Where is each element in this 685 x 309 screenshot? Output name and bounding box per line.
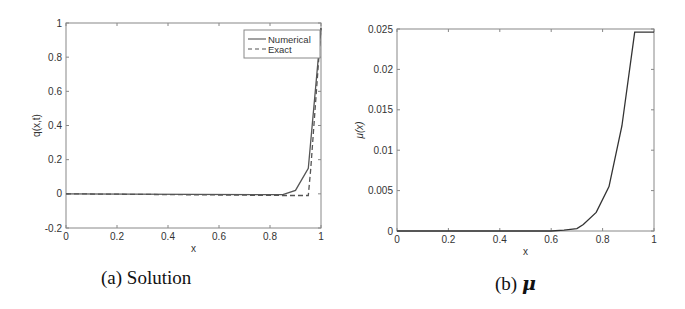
caption-mu: (b) μ — [495, 272, 536, 295]
chart-solution: 00.20.40.60.81-0.200.20.40.60.81xq(x,t)N… — [31, 18, 324, 255]
x-axis-label: x — [523, 246, 528, 257]
x-tick-label: 1 — [651, 234, 657, 245]
y-axis-label: μ(x) — [354, 121, 365, 139]
caption-solution-text: (a) Solution — [101, 267, 191, 288]
y-tick-label: 1 — [56, 18, 62, 29]
x-axis-label: x — [191, 243, 196, 254]
legend-label: Exact — [268, 44, 292, 55]
y-tick-label: 0.015 — [368, 104, 393, 115]
y-tick-label: 0.6 — [48, 86, 62, 97]
series-line-mu — [397, 32, 654, 231]
y-tick-label: 0.01 — [374, 145, 394, 156]
caption-mu-prefix: (b) — [495, 273, 517, 294]
caption-mu-symbol: μ — [522, 272, 536, 294]
figure-canvas: 00.20.40.60.81-0.200.20.40.60.81xq(x,t)N… — [0, 0, 685, 309]
x-tick-label: 0 — [394, 234, 400, 245]
y-tick-label: 0 — [56, 188, 62, 199]
x-tick-label: 0.6 — [212, 231, 226, 242]
x-tick-label: 0.8 — [596, 234, 610, 245]
y-tick-label: -0.2 — [45, 223, 63, 234]
x-tick-label: 0.8 — [263, 231, 277, 242]
y-tick-label: 0 — [387, 226, 393, 237]
x-tick-label: 0.6 — [544, 234, 558, 245]
y-tick-label: 0.2 — [48, 154, 62, 165]
x-tick-label: 0.2 — [441, 234, 455, 245]
x-tick-label: 0.4 — [493, 234, 507, 245]
y-tick-label: 0.4 — [48, 120, 62, 131]
x-tick-label: 0.4 — [161, 231, 175, 242]
caption-solution: (a) Solution — [101, 267, 191, 289]
y-tick-label: 0.025 — [368, 24, 393, 35]
chart-mu: 00.20.40.60.8100.0050.010.0150.020.025xμ… — [354, 24, 657, 258]
legend: NumericalExact — [244, 30, 320, 58]
x-tick-label: 1 — [318, 231, 324, 242]
y-tick-label: 0.02 — [374, 64, 394, 75]
y-tick-label: 0.8 — [48, 52, 62, 63]
plot-frame — [397, 29, 654, 231]
y-tick-label: 0.005 — [368, 185, 393, 196]
x-tick-label: 0.2 — [110, 231, 124, 242]
y-axis-label: q(x,t) — [31, 114, 42, 137]
x-tick-label: 0 — [63, 231, 69, 242]
